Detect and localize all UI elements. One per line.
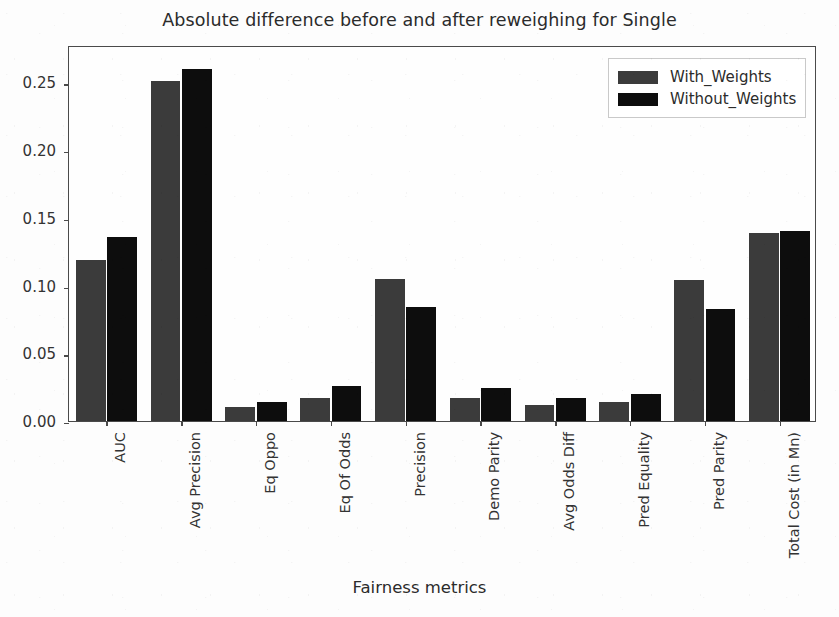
y-tick-label-0.00: 0.00	[0, 413, 56, 431]
x-tick-label-precision: Precision	[412, 432, 428, 497]
x-tick-mark	[256, 421, 257, 426]
x-tick-mark	[555, 421, 556, 426]
bar-precision-without_weights	[406, 307, 436, 421]
x-tick-mark	[181, 421, 182, 426]
x-tick-label-pred-parity: Pred Parity	[711, 432, 727, 510]
bar-total-cost-in-mn--without_weights	[780, 231, 810, 421]
bar-demo-parity-with_weights	[450, 398, 480, 421]
x-tick-mark	[480, 421, 481, 426]
bar-total-cost-in-mn--with_weights	[749, 233, 779, 421]
legend-label-without-weights: Without_Weights	[670, 90, 796, 108]
bar-avg-precision-without_weights	[182, 69, 212, 421]
x-tick-mark	[331, 421, 332, 426]
legend-swatch-without-weights	[618, 93, 658, 106]
y-tick-mark	[64, 355, 69, 356]
x-tick-mark	[705, 421, 706, 426]
y-tick-label-0.05: 0.05	[0, 345, 56, 363]
x-tick-mark	[406, 421, 407, 426]
bar-eq-of-odds-without_weights	[332, 386, 362, 421]
x-tick-label-auc: AUC	[112, 432, 128, 463]
bar-pred-equality-with_weights	[599, 402, 629, 421]
bar-avg-precision-with_weights	[151, 81, 181, 421]
chart-title: Absolute difference before and after rew…	[0, 10, 839, 30]
x-tick-mark	[106, 421, 107, 426]
bar-pred-equality-without_weights	[631, 394, 661, 421]
y-tick-mark	[64, 423, 69, 424]
y-tick-label-0.20: 0.20	[0, 142, 56, 160]
x-tick-label-demo-parity: Demo Parity	[486, 432, 502, 521]
x-tick-label-total-cost-in-mn-: Total Cost (in Mn)	[786, 432, 802, 558]
figure-canvas: Absolute difference before and after rew…	[0, 0, 839, 617]
y-tick-label-0.25: 0.25	[0, 74, 56, 92]
x-tick-label-eq-oppo: Eq Oppo	[262, 432, 278, 494]
bar-avg-odds-diff-with_weights	[525, 405, 555, 421]
x-tick-label-avg-precision: Avg Precision	[187, 432, 203, 528]
legend-swatch-with-weights	[618, 71, 658, 84]
legend-item-with-weights[interactable]: With_Weights	[618, 66, 796, 88]
bar-precision-with_weights	[375, 279, 405, 421]
x-tick-mark	[780, 421, 781, 426]
x-tick-mark	[630, 421, 631, 426]
legend-item-without-weights[interactable]: Without_Weights	[618, 88, 796, 110]
bar-eq-oppo-with_weights	[225, 407, 255, 421]
y-tick-label-0.15: 0.15	[0, 210, 56, 228]
bar-demo-parity-without_weights	[481, 388, 511, 421]
y-tick-label-0.10: 0.10	[0, 278, 56, 296]
y-tick-mark	[64, 84, 69, 85]
bar-eq-of-odds-with_weights	[300, 398, 330, 421]
bar-pred-parity-with_weights	[674, 280, 704, 421]
bar-eq-oppo-without_weights	[257, 402, 287, 421]
bar-auc-without_weights	[107, 237, 137, 421]
x-tick-label-eq-of-odds: Eq Of Odds	[337, 432, 353, 513]
x-tick-label-pred-equality: Pred Equality	[636, 432, 652, 528]
legend: With_Weights Without_Weights	[608, 58, 806, 118]
bar-avg-odds-diff-without_weights	[556, 398, 586, 421]
y-tick-mark	[64, 220, 69, 221]
x-axis-title: Fairness metrics	[0, 578, 839, 597]
y-tick-mark	[64, 152, 69, 153]
bar-auc-with_weights	[76, 260, 106, 421]
bar-pred-parity-without_weights	[706, 309, 736, 421]
legend-label-with-weights: With_Weights	[670, 68, 772, 86]
x-tick-label-avg-odds-diff: Avg Odds Diff	[561, 432, 577, 531]
y-tick-mark	[64, 288, 69, 289]
